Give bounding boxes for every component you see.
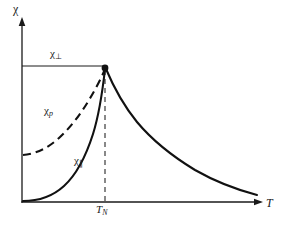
figure-root: χ T χ⊥ χp χ∥ TN — [0, 0, 282, 227]
neel-temperature-tick-label: TN — [96, 204, 107, 217]
x-axis-label: T — [266, 197, 273, 209]
curie-weiss-branch-curve — [106, 69, 257, 195]
neel-temperature-label-subscript: N — [102, 208, 107, 217]
chi-perp-label-subscript: ⊥ — [55, 52, 62, 61]
y-axis-arrow-icon — [19, 17, 26, 26]
chi-powder-curve — [23, 69, 105, 155]
neel-peak-marker — [102, 65, 109, 72]
chi-parallel-label: χ∥ — [74, 155, 83, 168]
x-axis-label-text: T — [266, 196, 273, 210]
chi-powder-label-subscript: p — [49, 109, 53, 118]
chi-perp-label: χ⊥ — [50, 48, 62, 61]
chi-parallel-curve — [23, 69, 105, 201]
chi-parallel-label-subscript: ∥ — [79, 159, 83, 168]
x-axis-arrow-icon — [254, 199, 263, 206]
chi-powder-label: χp — [44, 105, 53, 118]
y-axis-label-text: χ — [13, 2, 18, 16]
chart-canvas — [0, 0, 282, 227]
y-axis-label: χ — [13, 3, 18, 15]
